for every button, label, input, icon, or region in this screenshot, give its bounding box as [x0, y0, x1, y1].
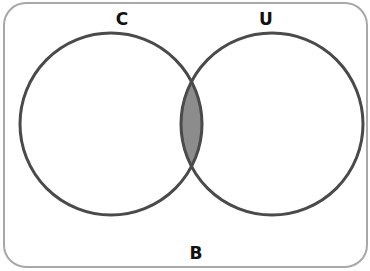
universal-set-label: B: [190, 243, 203, 263]
set-u-label: U: [259, 9, 273, 29]
venn-diagram: C U B: [0, 0, 370, 271]
set-c-circle: [20, 33, 202, 215]
set-c-label: C: [116, 9, 128, 29]
set-u-circle: [181, 33, 363, 215]
